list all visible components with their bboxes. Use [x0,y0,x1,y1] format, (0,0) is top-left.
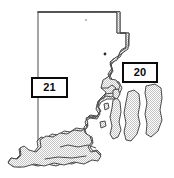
map-callout-21[interactable]: 21 [31,77,68,98]
island-aquidneck [124,90,140,141]
island-prudence [113,89,120,99]
point-marker-north [85,19,87,21]
mainland-silhouette [8,12,129,167]
map-callout-20[interactable]: 20 [122,62,158,83]
map-canvas [0,0,174,178]
map-figure: 21 20 [0,0,174,178]
eastern-shore-little-compton [145,84,162,137]
point-marker [104,53,107,56]
islet-group-upper-bay [104,103,109,110]
islet-group-lower-bay [100,121,106,128]
island-conanicut [110,98,121,139]
